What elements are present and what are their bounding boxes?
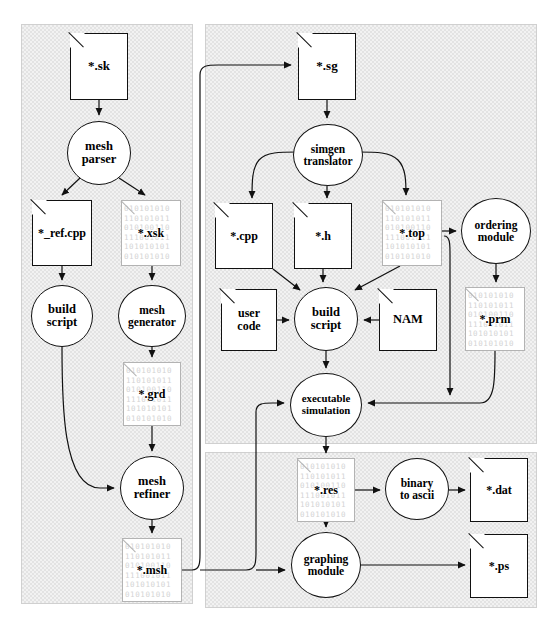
process-simgen-translator-label-line1: simgen — [311, 143, 346, 155]
process-graphing-module-label-line2: module — [308, 565, 344, 577]
file-dat-label: *.dat — [471, 484, 527, 497]
process-build-script-sim-label-line2: script — [311, 319, 342, 333]
file-user-code-label: usercode — [222, 307, 276, 333]
process-mesh-refiner[interactable]: meshrefiner — [120, 456, 184, 520]
file-ps[interactable]: *.ps — [470, 534, 528, 598]
file-sg[interactable]: *.sg — [298, 33, 356, 100]
file-res-label: *.res — [298, 484, 354, 497]
process-ordering-module-label-line1: ordering — [475, 219, 518, 231]
file-top[interactable]: 010101010 110101011 010100110 111001011 … — [382, 200, 442, 266]
file-msh-label: *.msh — [123, 564, 181, 577]
file-ref-cpp[interactable]: *_ref.cpp — [32, 200, 92, 266]
process-graphing-module-label-line1: graphing — [304, 553, 349, 565]
process-build-script-mesh-label-line2: script — [47, 316, 78, 330]
process-mesh-refiner-label-line2: refiner — [134, 488, 171, 502]
process-graphing-module[interactable]: graphingmodule — [291, 532, 361, 598]
file-cpp-label: *.cpp — [216, 230, 272, 243]
file-grd[interactable]: 010101010 110101011 010100110 111001011 … — [123, 362, 181, 426]
file-prm[interactable]: 010101010 110101011 010100110 111001011 … — [465, 287, 525, 351]
file-h[interactable]: *.h — [294, 203, 352, 269]
file-msh[interactable]: 010101010 110101011 010100110 111001011 … — [122, 538, 182, 602]
flowchart-canvas: *.skmeshparser*_ref.cpp010101010 1101010… — [0, 0, 550, 627]
file-prm-label: *.prm — [466, 313, 524, 326]
process-binary-to-ascii[interactable]: binaryto ascii — [385, 458, 449, 520]
process-mesh-generator-label-line1: mesh — [139, 304, 165, 316]
process-build-script-sim[interactable]: buildscript — [294, 287, 358, 351]
file-ps-label: *.ps — [471, 560, 527, 573]
file-user-code[interactable]: usercode — [221, 289, 277, 351]
process-ordering-module-label-line2: module — [478, 231, 514, 243]
file-xsk[interactable]: 010101010 110101011 010100110 111001011 … — [121, 200, 181, 266]
process-mesh-refiner-label-line1: mesh — [138, 475, 166, 489]
file-nam-label: NAM — [380, 313, 436, 327]
file-grd-label: *.grd — [124, 388, 180, 401]
process-mesh-generator-label-line2: generator — [128, 316, 176, 328]
file-cpp[interactable]: *.cpp — [215, 203, 273, 269]
file-sk[interactable]: *.sk — [70, 33, 128, 100]
process-mesh-parser-label-line1: mesh — [85, 140, 113, 154]
file-ref-cpp-label: *_ref.cpp — [33, 227, 91, 240]
process-build-script-mesh-label-line1: build — [48, 303, 76, 317]
process-binary-to-ascii-label-line1: binary — [401, 477, 434, 489]
process-executable-simulation[interactable]: executablesimulation — [290, 373, 362, 437]
process-mesh-parser-label-line2: parser — [82, 153, 117, 167]
file-sg-label: *.sg — [299, 59, 355, 73]
process-simgen-translator[interactable]: simgentranslator — [293, 124, 363, 186]
file-dat[interactable]: *.dat — [470, 458, 528, 522]
file-xsk-label: *.xsk — [122, 227, 180, 240]
process-simgen-translator-label-line2: translator — [303, 155, 352, 167]
file-res[interactable]: 010101010 110101011 010100110 111001011 … — [297, 458, 355, 522]
file-h-label: *.h — [295, 230, 351, 243]
file-top-label: *.top — [383, 227, 441, 240]
process-binary-to-ascii-label-line2: to ascii — [400, 489, 434, 501]
file-nam[interactable]: NAM — [379, 289, 437, 351]
process-build-script-mesh[interactable]: buildscript — [31, 285, 93, 347]
file-sk-label: *.sk — [71, 59, 127, 73]
process-mesh-parser[interactable]: meshparser — [67, 121, 131, 185]
process-executable-simulation-label-line2: simulation — [302, 405, 351, 417]
process-mesh-generator[interactable]: meshgenerator — [118, 285, 186, 347]
process-ordering-module[interactable]: orderingmodule — [461, 198, 531, 264]
process-build-script-sim-label-line1: build — [312, 306, 340, 320]
file-user-code-label-line2: code — [222, 320, 276, 333]
